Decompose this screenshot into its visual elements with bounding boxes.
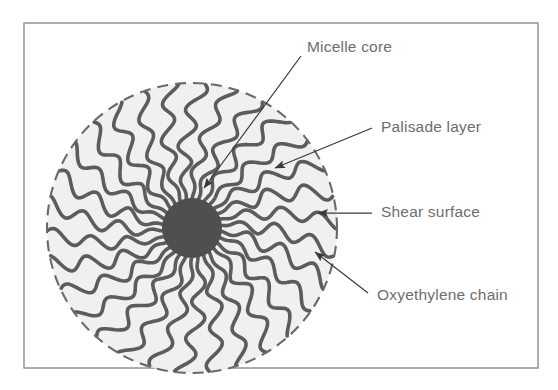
diagram-canvas: Micelle corePalisade layerShear surfaceO… <box>0 0 558 390</box>
micelle-diagram-figure: Micelle corePalisade layerShear surfaceO… <box>0 0 558 390</box>
label-micelle-core: Micelle core <box>307 38 392 55</box>
label-palisade-layer: Palisade layer <box>381 118 481 135</box>
micelle-core-disc <box>162 198 222 258</box>
micelle-structure <box>47 83 337 373</box>
label-oxyethylene-chain: Oxyethylene chain <box>377 286 508 303</box>
label-shear-surface: Shear surface <box>381 203 480 220</box>
